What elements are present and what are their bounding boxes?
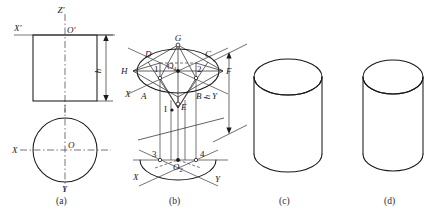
panel-a-label-o: O: [68, 140, 75, 150]
caption-a: (a): [56, 196, 67, 206]
panel-b-label-C: C: [205, 49, 212, 59]
panel-a-label-h: h: [93, 68, 103, 73]
figure-root: Z' X' O' X Y O h: [0, 0, 433, 219]
panel-d-cylinder: [363, 60, 423, 171]
caption-d: (d): [384, 196, 395, 206]
panel-b-node-E: [176, 102, 180, 106]
panel-b-node-G: [176, 43, 180, 47]
panel-c-cylinder: [254, 59, 322, 172]
panel-a-label-o-prime: O': [67, 25, 76, 35]
figure-footer-caption: [0, 210, 433, 219]
caption-b: (b): [169, 196, 180, 206]
panel-d-top-front-edge: [363, 77, 423, 94]
panel-b-label-A: A: [140, 91, 147, 101]
panel-b-label-G: G: [175, 33, 182, 43]
panel-b-node-1t: [158, 76, 161, 79]
panel-b-label-D: D: [144, 49, 152, 59]
panel-b-label-F: F: [225, 66, 232, 76]
panel-b-label-y-lower: Y: [215, 174, 221, 184]
panel-b-label-x-lower: X: [132, 172, 139, 182]
panel-b-node-3: [158, 158, 161, 161]
panel-b-label-1: 1: [154, 64, 159, 74]
panel-b-node-I: [170, 108, 173, 111]
panel-d-bottom-arc: [363, 154, 423, 171]
panel-a-label-y: Y: [62, 184, 68, 194]
drawing-canvas: Z' X' O' X Y O h: [0, 0, 433, 219]
panel-a-label-z-prime: Z': [58, 5, 66, 15]
panel-b-dim-arrow-up: [226, 52, 231, 59]
caption-c: (c): [279, 196, 290, 206]
panel-b-label-I: I: [164, 104, 167, 114]
panel-b-label-h: h: [202, 94, 212, 99]
panel-b-label-H: H: [120, 66, 128, 76]
panel-b-lower-rhombus-upper-edge: [138, 118, 224, 140]
panel-c-top-front-edge: [254, 77, 322, 95]
panel-a-arrow-down: [103, 95, 108, 102]
panel-a-arrow-up: [103, 35, 108, 42]
panel-b-node-4: [194, 158, 197, 161]
panel-a-orthographic: Z' X' O' X Y O h: [11, 5, 115, 194]
panel-b-label-2: 2: [197, 64, 202, 74]
panel-a-label-x-prime: X': [13, 23, 22, 33]
panel-b-label-3: 3: [152, 149, 157, 159]
panel-b-label-O2: O2: [173, 162, 184, 173]
panel-a-label-x: X: [11, 145, 18, 155]
panel-b-label-4: 4: [200, 149, 205, 159]
panel-b-label-y-upper: Y: [212, 91, 218, 101]
panel-b-node-2t: [194, 76, 197, 79]
panel-b-label-x-upper: X: [124, 89, 131, 99]
panel-b-isometric-construction: G C D H F A B E I 1 2 3 4 O1 O2 X Y X Y …: [120, 33, 247, 186]
panel-b-label-E: E: [180, 102, 187, 112]
panel-c-bottom-arc: [254, 154, 322, 172]
